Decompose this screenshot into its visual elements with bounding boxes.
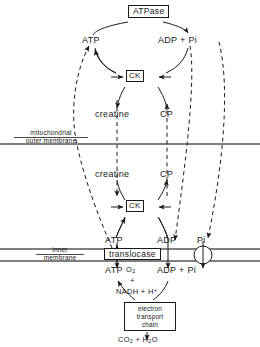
cp-mito-label: CP (160, 170, 173, 179)
ck-cyto-lower-arcs (117, 87, 167, 110)
nadh-superscript: + (154, 287, 157, 293)
o2-subscript: 2 (132, 268, 135, 274)
outer-membrane-label: mitochondrial outer membrane (14, 130, 88, 145)
ck-mito-box[interactable]: CK (126, 200, 144, 212)
adp-pi-matrix-text: ADP + Pi (157, 265, 196, 275)
co2-text: CO (118, 335, 130, 344)
inner-membrane-label: inner membrane (36, 247, 84, 262)
adp-pi-matrix-label: ADP + Pi (157, 266, 196, 275)
nadh-label: NADH + H+ (116, 288, 157, 296)
atp-to-ck-arc-up (95, 48, 116, 73)
cp-cyto-text: CP (160, 109, 173, 119)
adp-inner-top-label: ADP (157, 236, 176, 245)
etc-line-2: transport (127, 313, 173, 321)
ck-cyto-label: CK (129, 71, 141, 80)
ck-to-creatine-cyto (117, 87, 125, 108)
adp-pi-cyto-text: ADP + Pi (158, 35, 197, 45)
dashed-pi-cyto-to-inner (208, 42, 225, 238)
h2o-text: O (152, 335, 158, 344)
cp-to-ck-cyto (158, 87, 167, 110)
dashed-adp-cyto-to-inner (175, 46, 192, 240)
atp-cyto-text: ATP (82, 35, 100, 45)
cp-mito-text: CP (160, 169, 173, 179)
dashed-atp-matrix-to-cyto-atp (74, 46, 112, 248)
adp-inner-top-text: ADP (157, 235, 176, 245)
creatine-cyto-text: creatine (95, 109, 129, 119)
atp-inner-top-label: ATP (105, 236, 123, 245)
atp-matrix-label: ATP (105, 266, 123, 275)
atp-uparrow-cyto (95, 50, 116, 73)
atp-cytosolic-label: ATP (82, 36, 100, 45)
ck-mito-label: CK (129, 201, 141, 210)
atpase-box[interactable]: ATPase (128, 5, 169, 18)
atpase-to-atp-arc (93, 22, 128, 35)
creatine-mito-text: creatine (95, 169, 129, 179)
etc-line-1: electron (127, 305, 173, 313)
co2-h2o-separator: + H (133, 335, 148, 344)
atpase-cycle-arrows (93, 22, 188, 73)
adp-pi-cytosolic-label: ADP + Pi (158, 36, 197, 45)
inner-membrane-line2: membrane (36, 255, 84, 262)
ck-cytosolic-box[interactable]: CK (126, 70, 144, 82)
electron-transport-chain-box[interactable]: electron transport chain (124, 302, 176, 331)
creatine-to-ck-mito (117, 180, 125, 200)
etc-line-3: chain (127, 321, 173, 329)
translocase-box[interactable]: translocase (104, 248, 161, 260)
outer-membrane-line2: outer membrane (14, 138, 88, 145)
creatine-cytosolic-label: creatine (95, 110, 129, 119)
atp-matrix-text: ATP (105, 265, 123, 275)
plus-sign-o2-nadh: + (130, 277, 135, 285)
adp-to-ck-arc (166, 48, 188, 73)
translocase-label: translocase (109, 249, 156, 259)
dashed-shuttle-paths (74, 42, 225, 248)
creatine-phosphate-shuttle-diagram: ATPase ATP ADP + Pi CK creatine CP mitoc… (0, 0, 260, 347)
co2-h2o-label: CO2 + H2O (118, 336, 158, 345)
atpase-to-adp-arc (163, 22, 188, 33)
nadh-text: NADH + H (116, 287, 154, 296)
cp-cytosolic-label: CP (160, 110, 173, 119)
creatine-mito-label: creatine (95, 170, 129, 179)
plus-text: + (130, 276, 135, 285)
atpase-label: ATPase (133, 6, 164, 16)
atp-inner-top-text: ATP (105, 235, 123, 245)
pi-inner-top-text: Pi (197, 235, 206, 245)
pi-inner-top-label: Pi (197, 236, 206, 245)
ck-to-cp-mito (158, 180, 167, 200)
o2-label: O2 (126, 266, 135, 275)
